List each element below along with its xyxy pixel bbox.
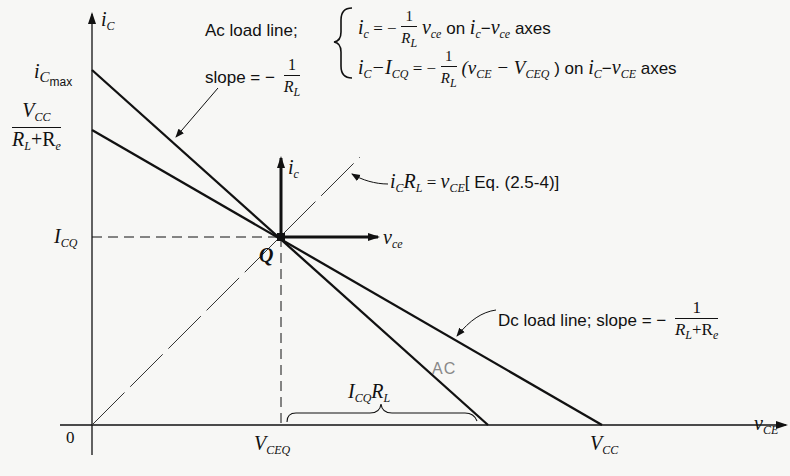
ref-line-label: iCRL = vCE[ Eq. (2.5-4)] <box>390 170 559 196</box>
ref-line <box>92 157 360 425</box>
vcc-intercept-label: VCC RL+Re <box>12 100 61 157</box>
q-vce-label: vce <box>383 226 403 252</box>
vcc-label: VCC <box>590 432 618 458</box>
ac-load-line-title: Ac load line; <box>205 21 298 41</box>
equation-brace <box>334 8 352 78</box>
vceq-label: VCEQ <box>254 432 290 458</box>
icq-rl-label: ICQRL <box>348 380 390 406</box>
ac-slope-label: slope = − 1RL <box>205 55 300 103</box>
y-axis-label: iC <box>101 8 115 34</box>
dc-pointer <box>457 310 496 336</box>
q-point <box>277 233 285 241</box>
origin-label: 0 <box>66 428 75 448</box>
icq-rl-brace <box>287 404 477 422</box>
q-label: Q <box>259 244 273 267</box>
icq-label: ICQ <box>54 225 77 251</box>
ac-equation-2: iC−ICQ = − 1RL (vCE − VCEQ ) on iC−vCE a… <box>358 46 677 94</box>
ic-max-label: iCmax <box>34 60 72 89</box>
ac-load-line <box>92 70 488 425</box>
handwritten-ac-note: AC <box>432 360 456 378</box>
x-axis-label: vCE <box>754 412 778 438</box>
ref-pointer <box>352 174 388 184</box>
dc-load-line-label: Dc load line; slope = − 1RL+Re <box>498 298 718 346</box>
q-ic-label: ic <box>288 156 299 182</box>
